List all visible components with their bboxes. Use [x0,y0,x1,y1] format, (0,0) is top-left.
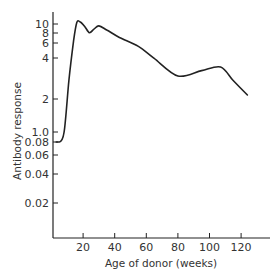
x-tick-label: 120 [231,241,252,254]
y-tick-label: 4 [42,52,49,65]
x-tick-label: 20 [76,241,90,254]
y-tick-label: 0.04 [25,168,50,181]
y-tick-label: 0.02 [25,197,50,210]
y-tick-label: 6 [42,37,49,50]
x-axis-title: Age of donor (weeks) [105,257,217,269]
y-tick-label: 0.08 [25,136,50,149]
data-line [56,21,247,142]
x-ticks: 20406080100120 [76,233,252,254]
x-tick-label: 80 [171,241,185,254]
x-tick-label: 60 [139,241,153,254]
x-tick-label: 100 [199,241,220,254]
y-axis-title: Antibody response [11,82,23,180]
y-tick-label: 2 [42,93,49,106]
chart: 1086421.00.080.060.040.02 20406080100120… [0,0,279,276]
x-tick-label: 40 [108,241,122,254]
y-tick-label: 0.06 [25,149,50,162]
